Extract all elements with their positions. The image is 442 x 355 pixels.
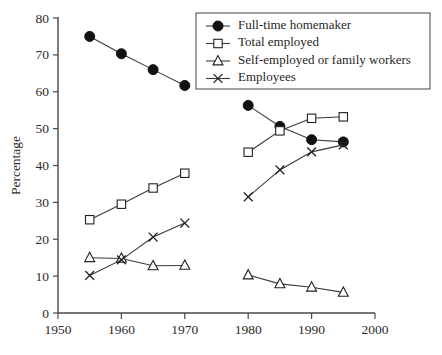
- data-point-marker: [276, 166, 285, 175]
- data-point-marker: [307, 135, 317, 145]
- series-segment: [248, 117, 343, 152]
- series-segment: [90, 258, 185, 266]
- data-point-marker: [116, 49, 126, 59]
- data-point-marker: [180, 80, 190, 90]
- data-point-marker: [149, 233, 158, 242]
- data-point-marker: [85, 271, 94, 280]
- x-tick-label: 1960: [108, 322, 135, 337]
- data-point-marker: [180, 260, 190, 269]
- x-tick-label: 1980: [235, 322, 262, 337]
- legend-entry-label: Employees: [238, 69, 296, 84]
- data-point-marker: [180, 219, 189, 228]
- y-tick-label: 30: [36, 195, 50, 210]
- chart-figure: 01020304050607080 1950196019701980199020…: [0, 0, 442, 355]
- data-point-marker: [339, 113, 347, 121]
- data-point-marker: [85, 252, 95, 261]
- series-1: [86, 113, 348, 224]
- series-2: [85, 252, 349, 296]
- legend-marker-icon: [213, 21, 223, 31]
- series-segment: [248, 145, 343, 197]
- data-point-marker: [148, 65, 158, 75]
- y-tick-label: 0: [42, 306, 49, 321]
- x-tick-label: 1990: [298, 322, 325, 337]
- y-axis-title: Percentage: [8, 136, 23, 195]
- line-chart: 01020304050607080 1950196019701980199020…: [0, 0, 442, 355]
- x-tick-label: 2000: [362, 322, 389, 337]
- legend-entry-label: Total employed: [238, 34, 320, 49]
- y-tick-label: 40: [36, 158, 50, 173]
- x-tick-label: 1970: [171, 322, 198, 337]
- series-segment: [90, 223, 185, 275]
- chart-legend: Full-time homemakerTotal employedSelf-em…: [196, 13, 430, 89]
- data-point-marker: [149, 184, 157, 192]
- data-point-marker: [85, 31, 95, 41]
- data-point-marker: [307, 114, 315, 122]
- x-axis-ticks: 195019601970198019902000: [45, 313, 389, 337]
- series-segment: [248, 275, 343, 292]
- series-segment: [90, 36, 185, 85]
- data-point-marker: [117, 200, 125, 208]
- series-segment: [248, 105, 343, 142]
- data-point-marker: [307, 147, 316, 156]
- y-tick-label: 70: [36, 47, 50, 62]
- data-point-marker: [86, 216, 94, 224]
- legend-entry-label: Self-employed or family workers: [238, 52, 411, 67]
- y-tick-label: 50: [36, 121, 50, 136]
- y-tick-label: 20: [36, 232, 50, 247]
- data-point-marker: [276, 127, 284, 135]
- x-tick-label: 1950: [45, 322, 72, 337]
- series-segment: [90, 173, 185, 219]
- data-point-marker: [244, 192, 253, 201]
- data-point-marker: [243, 270, 253, 279]
- y-tick-label: 60: [36, 84, 50, 99]
- data-point-marker: [243, 100, 253, 110]
- legend-marker-icon: [214, 39, 222, 47]
- y-axis-ticks: 01020304050607080: [36, 11, 59, 321]
- data-point-marker: [244, 148, 252, 156]
- y-tick-label: 10: [36, 269, 50, 284]
- data-point-marker: [181, 169, 189, 177]
- y-tick-label: 80: [36, 11, 50, 26]
- legend-entry-label: Full-time homemaker: [238, 17, 352, 32]
